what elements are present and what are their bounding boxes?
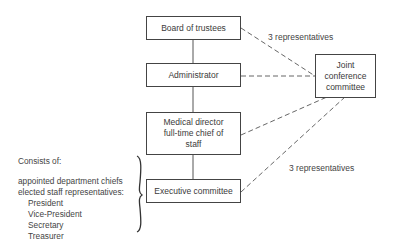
joint-conference-committee-box: Joint conference committee (315, 54, 376, 98)
note-item: President (18, 198, 63, 209)
board-label: Board of trustees (161, 23, 226, 34)
note-item: Secretary (18, 220, 64, 231)
note-item: appointed department chiefs (18, 176, 123, 187)
note-heading: Consists of: (18, 156, 61, 167)
org-diagram: Board of trustees Administrator Medical … (0, 0, 394, 248)
board-of-trustees-box: Board of trustees (146, 16, 241, 40)
joint-label-line2: conference (324, 71, 366, 82)
administrator-label: Administrator (168, 70, 218, 81)
brace-icon (137, 156, 142, 232)
joint-label-line3: committee (326, 82, 365, 93)
note-item: elected staff representatives: (18, 187, 124, 198)
medical-director-box: Medical director full-time chief of staf… (146, 112, 241, 155)
joint-label-line1: Joint (337, 60, 355, 71)
medical-label-line2: full-time chief of (164, 128, 224, 139)
medical-label-line3: staff (186, 139, 202, 150)
note-item: Vice-President (18, 209, 82, 220)
executive-committee-box: Executive committee (146, 179, 241, 203)
medical-label-line1: Medical director (164, 117, 224, 128)
dashed-exec-joint (241, 97, 345, 192)
executive-label: Executive committee (154, 186, 232, 197)
administrator-box: Administrator (146, 63, 241, 87)
edge-label-top: 3 representatives (268, 32, 333, 42)
dashed-medical-joint (241, 97, 327, 135)
note-item: Treasurer (18, 231, 64, 242)
edge-label-bottom: 3 representatives (289, 163, 354, 173)
